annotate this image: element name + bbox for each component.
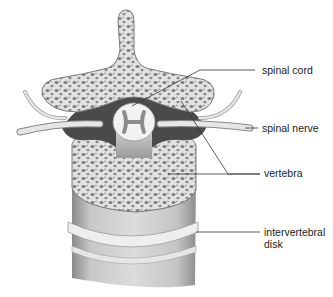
vertebral-arch bbox=[42, 10, 214, 112]
label-intervertebral-line2: disk bbox=[264, 238, 325, 250]
label-spinal-cord: spinal cord bbox=[262, 64, 313, 76]
label-intervertebral-disk: intervertebral disk bbox=[264, 226, 325, 250]
label-intervertebral-line1: intervertebral bbox=[264, 226, 325, 238]
spinal-cord bbox=[113, 103, 155, 158]
label-spinal-nerve: spinal nerve bbox=[262, 122, 319, 134]
vertebra-illustration bbox=[0, 0, 333, 297]
label-vertebra: vertebra bbox=[264, 167, 303, 179]
